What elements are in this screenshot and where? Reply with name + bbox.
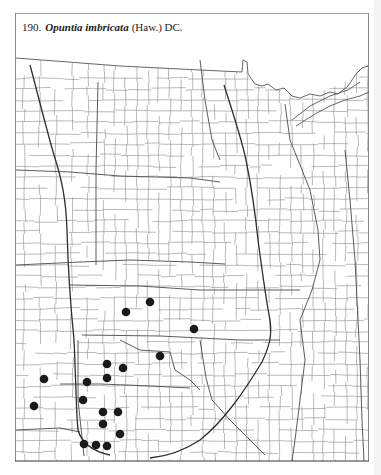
county-grid bbox=[16, 60, 370, 461]
occurrence-dot bbox=[116, 430, 125, 439]
occurrence-dot bbox=[122, 308, 131, 317]
occurrence-dot bbox=[156, 352, 165, 361]
occurrence-dot bbox=[30, 402, 39, 411]
distribution-map bbox=[0, 0, 381, 475]
occurrence-dot bbox=[190, 325, 199, 334]
occurrence-dot bbox=[80, 440, 89, 449]
occurrence-dot bbox=[103, 374, 112, 383]
occurrence-dot bbox=[103, 442, 112, 451]
occurrence-dot bbox=[92, 441, 101, 450]
occurrence-dot bbox=[79, 396, 88, 405]
occurrence-dot bbox=[40, 375, 49, 384]
occurrence-dot bbox=[103, 360, 112, 369]
occurrence-dot bbox=[83, 378, 92, 387]
occurrence-dot bbox=[99, 408, 108, 417]
northern-border bbox=[16, 58, 369, 126]
page-edge bbox=[374, 0, 381, 475]
occurrence-dot bbox=[146, 298, 155, 307]
occurrence-dot bbox=[114, 408, 123, 417]
range-boundary-lines bbox=[30, 65, 271, 458]
occurrence-dot bbox=[119, 364, 128, 373]
occurrence-dot bbox=[99, 420, 108, 429]
